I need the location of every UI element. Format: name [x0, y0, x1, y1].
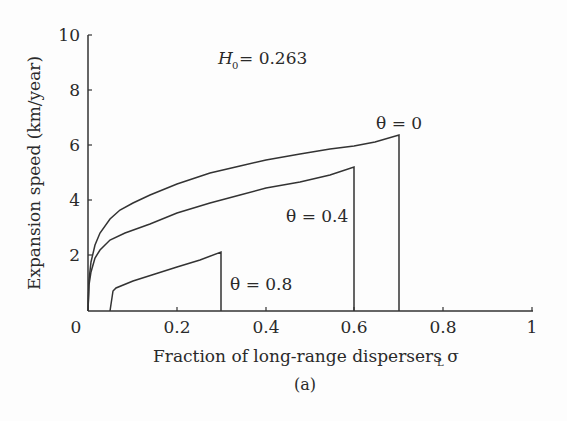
- y-tick-2: 2: [69, 245, 80, 265]
- chart-figure: 10 8 6 4 2 0 0.2 0.4 0.6 0.8 1 H 0 = 0.2…: [0, 0, 567, 421]
- x-axis-label-subscript: L: [437, 357, 444, 368]
- label-theta-0: θ = 0: [376, 113, 422, 133]
- y-tick-4: 4: [69, 190, 80, 210]
- x-tick-0.4: 0.4: [252, 317, 279, 337]
- label-theta-0.8: θ = 0.8: [230, 274, 292, 294]
- y-tick-labels: 10 8 6 4 2: [58, 25, 80, 265]
- figure-caption: (a): [294, 375, 316, 394]
- x-tick-0.2: 0.2: [163, 317, 190, 337]
- x-tick-1: 1: [527, 317, 538, 337]
- y-tick-10: 10: [58, 25, 80, 45]
- h0-subscript: 0: [232, 60, 238, 71]
- y-tick-8: 8: [69, 80, 80, 100]
- x-axis-label: Fraction of long-range dispersers σ: [153, 346, 459, 366]
- y-tick-6: 6: [69, 135, 80, 155]
- annotations: H 0 = 0.263 θ = 0 θ = 0.4 θ = 0.8: [217, 48, 422, 294]
- h0-value: = 0.263: [239, 48, 307, 68]
- x-tick-labels: 0 0.2 0.4 0.6 0.8 1: [71, 317, 538, 337]
- x-tick-0.8: 0.8: [429, 317, 456, 337]
- x-tick-0.6: 0.6: [340, 317, 367, 337]
- chart-svg: 10 8 6 4 2 0 0.2 0.4 0.6 0.8 1 H 0 = 0.2…: [0, 0, 567, 421]
- x-tick-0: 0: [71, 317, 82, 337]
- y-axis-label: Expansion speed (km/year): [24, 56, 44, 290]
- label-theta-0.4: θ = 0.4: [286, 206, 348, 226]
